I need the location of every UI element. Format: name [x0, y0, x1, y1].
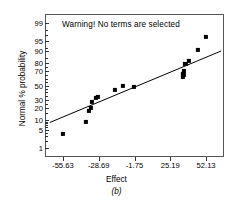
y-axis-tick-labels: 15102030507080909599 [0, 0, 43, 202]
y-minor-tickmark [45, 122, 48, 123]
x-tickmark [99, 157, 100, 161]
x-tickmark [170, 157, 171, 161]
x-tick--28.69: -28.69 [88, 161, 110, 170]
y-tick-30: 30 [35, 95, 43, 104]
y-minor-tickmark [45, 75, 48, 76]
y-tick-90: 90 [35, 46, 43, 55]
y-tickmark [45, 100, 49, 101]
x-tick-52.13: 52.13 [197, 161, 216, 170]
normal-probability-plot-figure: Warning! No terms are selected Normal % … [0, 0, 233, 202]
y-tickmark [45, 51, 49, 52]
y-tickmark [45, 130, 49, 131]
y-tick-20: 20 [35, 104, 43, 113]
y-minor-tickmark [45, 35, 48, 36]
y-minor-tickmark [45, 79, 48, 80]
y-tickmark [45, 71, 49, 72]
y-tickmark [45, 148, 49, 149]
y-minor-tickmark [45, 123, 48, 124]
y-minor-tickmark [45, 82, 48, 83]
y-minor-tickmark [45, 141, 48, 142]
x-tickmark [63, 157, 64, 161]
plot-warning-title: Warning! No terms are selected [62, 20, 222, 29]
y-tick-50: 50 [35, 81, 43, 90]
x-tick--1.75: -1.75 [126, 161, 143, 170]
y-minor-tickmark [45, 125, 48, 126]
y-minor-tickmark [45, 48, 48, 49]
y-tickmark [45, 23, 49, 24]
y-tick-70: 70 [35, 67, 43, 76]
y-tick-5: 5 [39, 125, 43, 134]
y-tickmark [45, 86, 49, 87]
y-minor-tickmark [45, 67, 48, 68]
y-minor-tickmark [45, 89, 48, 90]
plot-frame [45, 14, 224, 157]
y-tick-1: 1 [39, 144, 43, 153]
y-tick-99: 99 [35, 18, 43, 27]
y-minor-tickmark [45, 136, 48, 137]
y-tick-80: 80 [35, 58, 43, 67]
y-minor-tickmark [45, 96, 48, 97]
y-tick-95: 95 [35, 37, 43, 46]
x-tick-25.19: 25.19 [161, 161, 180, 170]
x-axis-label: Effect [0, 175, 233, 184]
y-minor-tickmark [45, 104, 48, 105]
y-minor-tickmark [45, 113, 48, 114]
y-minor-tickmark [45, 58, 48, 59]
y-tickmark [45, 108, 49, 109]
x-tickmark [135, 157, 136, 161]
y-tickmark [45, 41, 49, 42]
x-tickmark [206, 157, 207, 161]
y-minor-tickmark [45, 30, 48, 31]
figure-caption: (b) [0, 187, 233, 196]
y-minor-tickmark [45, 92, 48, 93]
y-tickmark [45, 63, 49, 64]
y-minor-tickmark [45, 133, 48, 134]
y-minor-tickmark [45, 127, 48, 128]
x-tick--55.63: -55.63 [52, 161, 74, 170]
y-tick-10: 10 [35, 116, 43, 125]
